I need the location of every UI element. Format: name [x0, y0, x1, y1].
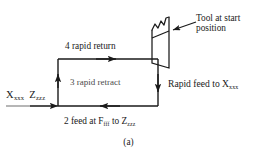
label-move-4-rapid-return: 4 rapid return: [65, 42, 116, 52]
start-x-axis: X: [6, 89, 14, 100]
label-tool-callout: Tool at start position: [196, 14, 240, 34]
tool-shape: [152, 17, 169, 68]
tool-callout-line-2: position: [196, 24, 240, 34]
start-z-subscript: zzz: [36, 94, 45, 101]
start-z-axis: Z: [29, 89, 36, 100]
label-rapid-feed: Rapid feed to Xxxx: [168, 79, 239, 89]
move2-feed-subscript: fff: [104, 121, 110, 127]
label-move-2-feed: 2 feed at Ffff to Zzzz: [64, 117, 135, 127]
move2-prefix: 2 feed at F: [64, 116, 104, 126]
rapid-feed-text: Rapid feed to X: [168, 78, 229, 89]
start-x-subscript: xxx: [14, 94, 24, 101]
label-start-position: XxxxZzzz: [6, 89, 45, 100]
toolpath-diagram: XxxxZzzz 4 rapid return 3 rapid retract …: [0, 0, 257, 157]
tool-callout-leader: [173, 22, 196, 30]
label-move-3-rapid-retract: 3 rapid retract: [70, 78, 120, 87]
move2-z-subscript: zzz: [127, 121, 135, 127]
figure-caption: (a): [0, 138, 257, 148]
rapid-feed-subscript: xxx: [229, 84, 239, 90]
move2-middle: to Z: [110, 116, 128, 126]
